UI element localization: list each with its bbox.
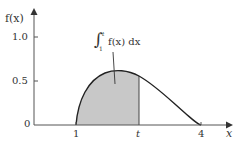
- shaded-area: [76, 71, 139, 125]
- x-tick-label-1: 1: [73, 129, 79, 139]
- origin-label: 0: [24, 119, 30, 129]
- integral-upper-limit: t: [102, 30, 104, 37]
- x-tick-label-4: 4: [198, 129, 204, 139]
- y-axis-label-text: f(x): [5, 12, 24, 25]
- integral-body: f(x) dx: [108, 36, 140, 47]
- integral-lower-limit: 1: [99, 45, 103, 52]
- x-tick-label-t: t: [136, 129, 140, 139]
- y-axis-label: f(x): [5, 13, 24, 24]
- y-tick-label-1: 1.0: [12, 32, 28, 42]
- y-axis-arrow-icon: [31, 8, 38, 15]
- x-axis-label: x: [226, 128, 232, 139]
- chart-canvas: [0, 0, 243, 143]
- y-tick-label-05: 0.5: [12, 76, 28, 86]
